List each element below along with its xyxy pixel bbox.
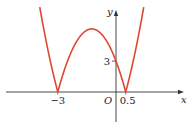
x-tick-label: 0.5 <box>120 95 136 106</box>
chart-svg: 3−30.5Oxy <box>0 0 193 124</box>
origin-label: O <box>104 95 112 106</box>
function-curve <box>40 7 144 92</box>
chart: 3−30.5Oxy <box>0 0 193 124</box>
y-axis-arrow <box>114 10 118 16</box>
y-tick-label: 3 <box>104 56 110 67</box>
x-tick-label: −3 <box>50 95 65 106</box>
x-axis-label: x <box>181 94 187 105</box>
y-axis-label: y <box>106 6 113 17</box>
